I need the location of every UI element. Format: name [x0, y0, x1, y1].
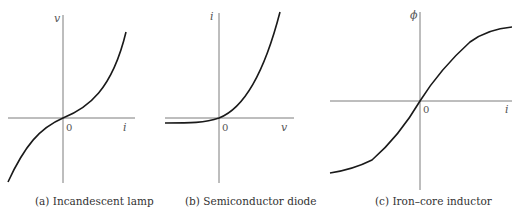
- caption: (a) Incandescent lamp: [35, 195, 154, 207]
- x-axis-label: v: [281, 121, 288, 134]
- v-i-curve: [8, 32, 126, 182]
- phi-i-curve: [330, 27, 512, 173]
- panel-semiconductor-diode: i v 0 (b) Semiconductor diode: [165, 10, 317, 207]
- panel-iron-core-inductor: ϕ i 0 (c) Iron–core inductor: [330, 9, 512, 207]
- origin-label: 0: [66, 122, 72, 133]
- caption: (c) Iron–core inductor: [375, 195, 493, 207]
- y-axis-label: ϕ: [410, 9, 418, 22]
- panel-incandescent-lamp: v i 0 (a) Incandescent lamp: [8, 12, 154, 207]
- x-axis-label: i: [123, 121, 127, 134]
- y-axis-label: i: [210, 10, 214, 23]
- x-axis-label: i: [505, 103, 509, 116]
- origin-label: 0: [423, 104, 429, 115]
- characteristic-curves-figure: v i 0 (a) Incandescent lamp i v 0 (b) Se…: [0, 0, 517, 214]
- i-v-curve: [165, 12, 280, 123]
- origin-label: 0: [222, 122, 228, 133]
- caption: (b) Semiconductor diode: [185, 195, 317, 207]
- y-axis-label: v: [54, 12, 61, 25]
